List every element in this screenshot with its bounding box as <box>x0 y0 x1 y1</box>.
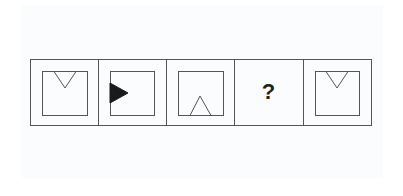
square-shape <box>179 72 224 116</box>
cell-4-question-mark: ? <box>234 59 303 125</box>
triangle-up-icon <box>190 96 211 116</box>
cell-5 <box>316 72 360 116</box>
triangle-right-filled-icon <box>110 83 128 103</box>
cell-3 <box>179 72 224 116</box>
square-shape <box>316 72 360 116</box>
triangle-down-icon <box>326 72 348 89</box>
triangle-down-icon <box>54 72 76 89</box>
cell-1 <box>43 72 88 116</box>
square-shape <box>43 72 88 116</box>
figure-sequence <box>0 0 403 196</box>
cell-2 <box>110 72 155 116</box>
